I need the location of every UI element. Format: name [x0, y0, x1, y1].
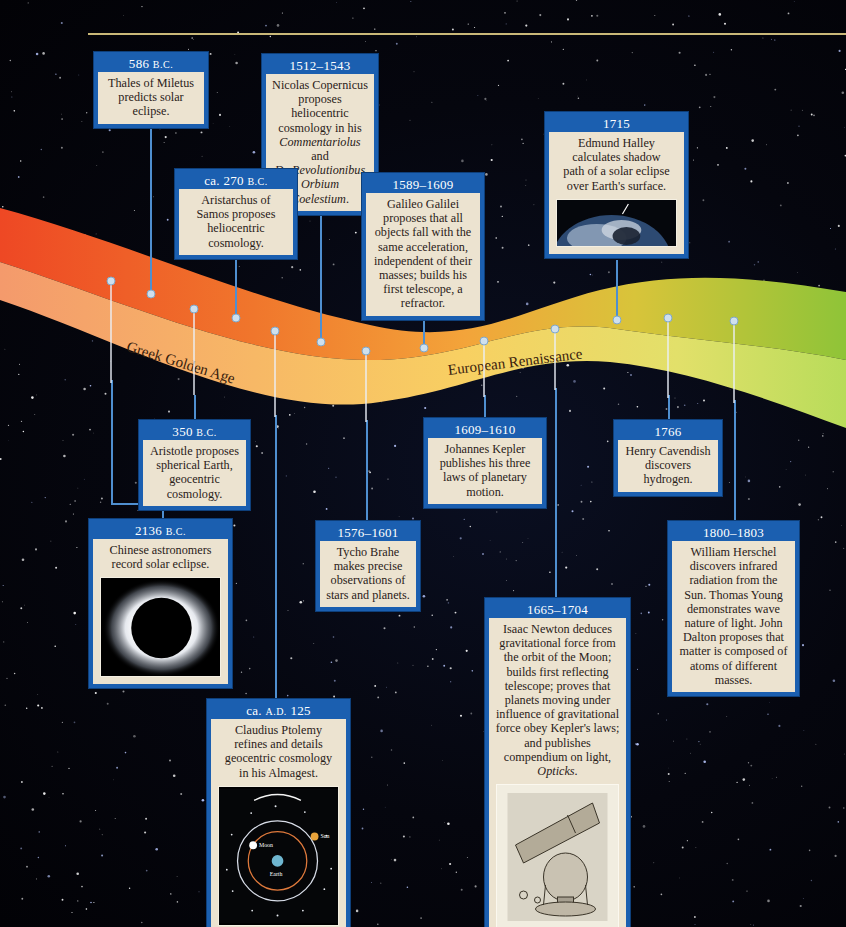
event-date: ca. 270 B.C.	[179, 172, 293, 189]
pin-stem	[274, 332, 276, 417]
event-date: 350 B.C.	[143, 423, 246, 440]
pin-aristotle[interactable]	[190, 305, 199, 314]
pin-ptolemy[interactable]	[271, 327, 280, 336]
connector-kepler	[484, 395, 486, 420]
connector-halley	[616, 260, 618, 320]
event-description: Thales of Miletus predicts solar eclipse…	[98, 72, 204, 124]
event-date: 1665–1704	[489, 601, 626, 618]
pin-stem	[667, 320, 669, 398]
pin-stem	[554, 330, 556, 390]
event-card-chinese[interactable]: 2136 B.C. Chinese astronomers record sol…	[89, 519, 232, 688]
event-card-ptolemy[interactable]: ca. A.D. 125 Claudius Ptolemy refines an…	[207, 699, 350, 927]
pin-thales[interactable]	[147, 290, 156, 299]
pin-stem	[193, 310, 195, 395]
pin-halley[interactable]	[613, 316, 622, 325]
event-description: Henry Cavendish discovers hydrogen.	[618, 440, 718, 492]
event-description: Isaac Newton deduces gravitational force…	[489, 618, 626, 927]
pin-stem	[483, 342, 485, 397]
event-card-galileo[interactable]: 1589–1609 Galileo Galilei proposes that …	[362, 173, 484, 320]
earth-eclipse-shadow-photo	[556, 199, 677, 247]
event-description: Tycho Brahe makes precise observations o…	[320, 541, 416, 607]
event-card-newton[interactable]: 1665–1704 Isaac Newton deduces gravitati…	[485, 598, 630, 927]
event-date: 2136 B.C.	[93, 522, 228, 539]
pin-newton[interactable]	[551, 325, 560, 334]
pin-kepler[interactable]	[480, 337, 489, 346]
connector-tycho	[366, 420, 368, 522]
moon-label: Moon	[259, 842, 273, 848]
event-description: Claudius Ptolemy refines and details geo…	[211, 719, 346, 927]
pin-tycho[interactable]	[362, 347, 371, 356]
event-card-thales[interactable]: 586 B.C. Thales of Miletus predicts sola…	[94, 52, 208, 128]
pin-aristarchus[interactable]	[232, 314, 241, 323]
connector-chinese-v	[111, 380, 113, 504]
event-card-aristarchus[interactable]: ca. 270 B.C. Aristarchus of Samos propos…	[175, 169, 297, 259]
connector-thales	[150, 109, 152, 294]
pin-cavendish[interactable]	[664, 314, 673, 323]
event-description: Aristarchus of Samos proposes heliocentr…	[179, 189, 293, 255]
event-description: William Herschel discovers infrared radi…	[672, 541, 795, 692]
event-date: 586 B.C.	[98, 55, 204, 72]
event-date: 1512–1543	[266, 57, 374, 74]
pin-herschel[interactable]	[730, 317, 739, 326]
event-card-aristotle[interactable]: 350 B.C. Aristotle proposes spherical Ea…	[139, 420, 250, 510]
connector-ptolemy	[275, 415, 277, 700]
solar-eclipse-corona-photo	[100, 577, 221, 677]
pin-stem	[365, 352, 367, 422]
event-date: 1766	[618, 423, 718, 440]
event-card-cavendish[interactable]: 1766 Henry Cavendish discovers hydrogen.	[614, 420, 722, 496]
sun-label: Sun	[320, 833, 329, 839]
event-card-herschel[interactable]: 1800–1803 William Herschel discovers inf…	[668, 521, 799, 696]
event-card-tycho[interactable]: 1576–1601 Tycho Brahe makes precise obse…	[316, 521, 420, 611]
pin-copernicus[interactable]	[317, 338, 326, 347]
event-description: Galileo Galilei proposes that all object…	[366, 193, 480, 316]
event-description: Edmund Halley calculates shadow path of …	[549, 132, 684, 254]
newton-reflecting-telescope-drawing	[496, 784, 619, 927]
timeline-poster: Greek Golden Age European Renaissance 58…	[0, 0, 846, 927]
connector-aristotle	[194, 395, 196, 420]
connector-herschel	[734, 400, 736, 522]
event-card-halley[interactable]: 1715 Edmund Halley calculates shadow pat…	[545, 112, 688, 258]
connector-newton	[555, 388, 557, 598]
event-card-kepler[interactable]: 1609–1610 Johannes Kepler publishes his …	[424, 418, 546, 508]
pin-stem	[110, 283, 112, 383]
event-date: 1715	[549, 115, 684, 132]
pin-chinese[interactable]	[107, 277, 116, 286]
event-description: Johannes Kepler publishes his three laws…	[428, 438, 542, 504]
event-date: 1576–1601	[320, 524, 416, 541]
event-description: Aristotle proposes spherical Earth, geoc…	[143, 440, 246, 506]
event-date: 1589–1609	[366, 176, 480, 193]
event-date: 1609–1610	[428, 421, 542, 438]
event-date: ca. A.D. 125	[211, 702, 346, 719]
event-description: Chinese astronomers record solar eclipse…	[93, 539, 228, 684]
pin-stem	[733, 323, 735, 403]
event-date: 1800–1803	[672, 524, 795, 541]
pin-galileo[interactable]	[420, 344, 429, 353]
connector-cavendish	[668, 395, 670, 420]
earth-label: Earth	[270, 871, 283, 877]
geocentric-orbit-diagram: Moon Earth Sun	[218, 786, 339, 926]
